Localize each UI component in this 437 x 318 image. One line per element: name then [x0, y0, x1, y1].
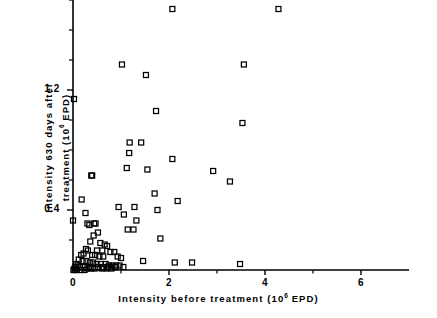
data-point — [175, 199, 180, 204]
data-point — [88, 239, 93, 244]
data-point — [190, 260, 195, 265]
data-point — [119, 256, 124, 261]
data-point — [227, 179, 232, 184]
x-axis-title-pre: Intensity before treatment (10 — [118, 293, 284, 304]
data-point — [119, 62, 124, 67]
y-axis-title-line-2-pre: treatment (10 — [60, 128, 71, 201]
y-tick-label-0.4: 0.4 — [4, 203, 60, 214]
x-axis-title: Intensity before treatment (106 EPD) — [0, 292, 437, 304]
y-axis-title-exponent: 6 — [58, 124, 65, 128]
data-point — [116, 205, 121, 210]
data-point — [154, 109, 159, 114]
y-axis-title-line-1: Intensity 630 days after — [42, 28, 55, 268]
data-point — [158, 236, 163, 241]
data-point — [211, 169, 216, 174]
data-point — [121, 212, 126, 217]
data-point — [241, 62, 246, 67]
data-point — [124, 166, 129, 171]
data-point — [134, 218, 139, 223]
data-point-group — [71, 0, 378, 273]
data-point — [145, 167, 150, 172]
data-point — [170, 157, 175, 162]
data-point — [240, 121, 245, 126]
data-point — [170, 7, 175, 12]
data-point — [79, 197, 84, 202]
data-point — [125, 227, 130, 232]
y-axis-title-line-2: treatment (106 EPD) — [55, 28, 71, 268]
data-point — [139, 140, 144, 145]
data-point — [238, 262, 243, 267]
x-tick-label-2: 2 — [139, 277, 199, 288]
data-point — [83, 211, 88, 216]
data-point — [127, 140, 132, 145]
data-point — [172, 260, 177, 265]
data-point — [93, 221, 98, 226]
data-point — [155, 208, 160, 213]
y-axis-title-line-2-post: EPD) — [60, 94, 71, 125]
y-axis-title: Intensity 630 days after treatment (106 … — [42, 28, 71, 268]
x-tick-label-4: 4 — [235, 277, 295, 288]
x-axis-title-post: EPD) — [288, 293, 319, 304]
y-tick-label-1.2: 1.2 — [4, 83, 60, 94]
data-point — [152, 191, 157, 196]
data-point — [131, 227, 136, 232]
data-point — [276, 7, 281, 12]
data-point — [141, 259, 146, 264]
scatter-plot-figure: Intensity before treatment (106 EPD) Int… — [0, 0, 437, 318]
data-point — [132, 205, 137, 210]
data-point — [143, 73, 148, 78]
x-tick-label-6: 6 — [331, 277, 391, 288]
data-point — [127, 151, 132, 156]
x-tick-label-0: 0 — [43, 277, 103, 288]
